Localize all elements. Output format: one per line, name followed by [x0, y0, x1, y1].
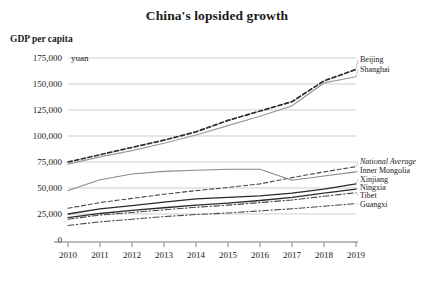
series-label: Beijing [360, 55, 384, 64]
y-tick-label: 25,000 [37, 209, 62, 219]
y-tick-label: 150,000 [33, 79, 63, 89]
series-leader-line [356, 162, 358, 167]
series-label: Guangxi [360, 200, 388, 209]
x-tick-label: 2012 [123, 250, 141, 260]
x-tick-label: 2018 [315, 250, 334, 260]
y-tick-label: 0 [58, 235, 63, 245]
series-label: Tibet [360, 191, 377, 200]
series-labels-group: BeijingShanghaiNational AverageInner Mon… [359, 55, 417, 209]
y-tick-label: 100,000 [33, 131, 63, 141]
x-tick-label: 2015 [219, 250, 238, 260]
series-line [68, 69, 356, 162]
series-lines-group [68, 60, 358, 226]
series-line [68, 193, 356, 220]
series-leader-line [356, 188, 358, 190]
series-line [68, 204, 356, 226]
y-tick-label: 125,000 [33, 105, 63, 115]
series-leader-line [356, 70, 358, 77]
x-tick-label: 2011 [91, 250, 109, 260]
x-tick-label: 2016 [251, 250, 270, 260]
series-line [68, 184, 356, 214]
chart-container: China's lopsided growth GDP per capita 0… [0, 0, 434, 281]
x-tick-label: 2019 [347, 250, 366, 260]
series-label: Shanghai [360, 65, 391, 74]
y-axis-unit-label: yuan [71, 53, 89, 63]
x-tick-label: 2013 [155, 250, 174, 260]
series-label: Inner Mongolia [360, 166, 410, 175]
series-leader-line [356, 171, 358, 172]
x-axis-group: 2010201120122013201420152016201720182019 [54, 242, 366, 260]
series-line [68, 167, 356, 209]
series-leader-line [356, 180, 358, 184]
series-line [68, 169, 356, 190]
series-label: National Average [359, 157, 417, 166]
y-tick-label: 50,000 [37, 183, 62, 193]
y-tick-label: 175,000 [33, 53, 63, 63]
series-leader-line [356, 204, 358, 205]
x-tick-label: 2017 [283, 250, 302, 260]
chart-plot: 025,00050,00075,000100,000125,000150,000… [0, 0, 434, 281]
x-tick-label: 2014 [187, 250, 206, 260]
series-line [68, 77, 356, 164]
x-tick-label: 2010 [59, 250, 78, 260]
series-leader-line [356, 60, 358, 70]
y-tick-label: 75,000 [37, 157, 62, 167]
series-line [68, 189, 356, 218]
series-leader-line [356, 193, 358, 196]
